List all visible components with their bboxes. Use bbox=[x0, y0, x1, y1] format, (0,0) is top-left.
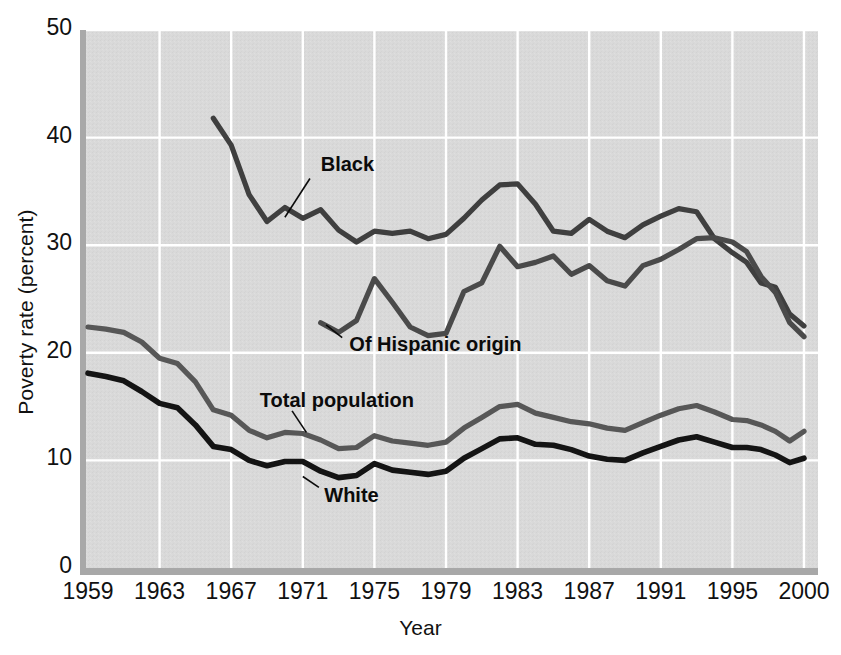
y-tick-label: 40 bbox=[12, 122, 72, 149]
x-axis-label: Year bbox=[0, 616, 841, 640]
x-tick-label: 2000 bbox=[759, 578, 841, 605]
series-label-total-population: Total population bbox=[260, 389, 414, 412]
series-label-of-hispanic-origin: Of Hispanic origin bbox=[349, 333, 521, 356]
plot-background bbox=[86, 30, 818, 568]
series-label-white: White bbox=[324, 484, 378, 507]
y-axis-label: Poverty rate (percent) bbox=[14, 182, 38, 442]
series-label-black: Black bbox=[321, 153, 374, 176]
y-tick-label: 50 bbox=[12, 14, 72, 41]
y-tick-label: 20 bbox=[12, 337, 72, 364]
y-tick-label: 0 bbox=[12, 552, 72, 579]
y-tick-label: 30 bbox=[12, 229, 72, 256]
chart-canvas bbox=[0, 0, 841, 655]
poverty-rate-chart: Poverty rate (percent) Year 01020304050 … bbox=[0, 0, 841, 655]
y-tick-label: 10 bbox=[12, 444, 72, 471]
